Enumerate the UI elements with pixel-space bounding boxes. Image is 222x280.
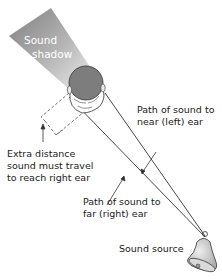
left-ear [101, 84, 105, 92]
right-ear [67, 86, 71, 94]
extra-distance-label-line3: to reach right ear [7, 172, 90, 184]
near-path-label-line2: near (left) ear [137, 116, 203, 128]
far-path-label-line1: Path of sound to [83, 196, 160, 208]
near-path-label-line1: Path of sound to [137, 104, 214, 116]
extra-distance-label-line1: Extra distance [7, 148, 75, 160]
diagram-canvas: Sound shadow Path of sound to near (left… [0, 0, 222, 280]
bell-icon [187, 232, 216, 275]
sound-shadow-label-line1: Sound [24, 34, 57, 47]
far-path-label-line2: far (right) ear [83, 208, 147, 220]
sound-source-label: Sound source [119, 243, 183, 255]
sound-shadow-label-line2: shadow [32, 48, 72, 61]
extra-distance-label-line2: sound must travel [7, 160, 93, 172]
head-top-view [67, 66, 105, 113]
